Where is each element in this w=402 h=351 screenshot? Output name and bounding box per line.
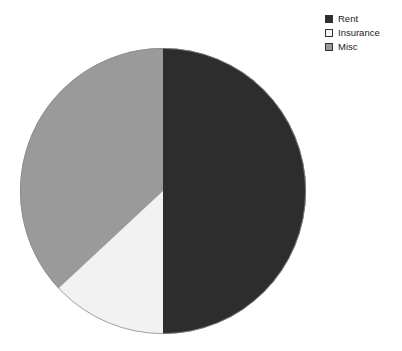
legend-label-misc: Misc <box>338 41 358 52</box>
legend-swatch-icon-insurance <box>325 29 333 37</box>
legend-swatch-icon-rent <box>325 15 333 23</box>
legend-label-insurance: Insurance <box>338 27 380 38</box>
legend-item-rent[interactable]: Rent <box>325 12 397 25</box>
pie-slice-group <box>20 48 306 334</box>
legend-item-insurance[interactable]: Insurance <box>325 26 397 39</box>
legend-item-misc[interactable]: Misc <box>325 40 397 53</box>
legend-label-rent: Rent <box>338 13 358 24</box>
chart-legend: Rent Insurance Misc <box>325 12 397 54</box>
pie-chart-figure: Rent Insurance Misc <box>0 0 402 351</box>
legend-swatch-icon-misc <box>325 43 333 51</box>
pie-slice-rent[interactable] <box>163 48 306 334</box>
